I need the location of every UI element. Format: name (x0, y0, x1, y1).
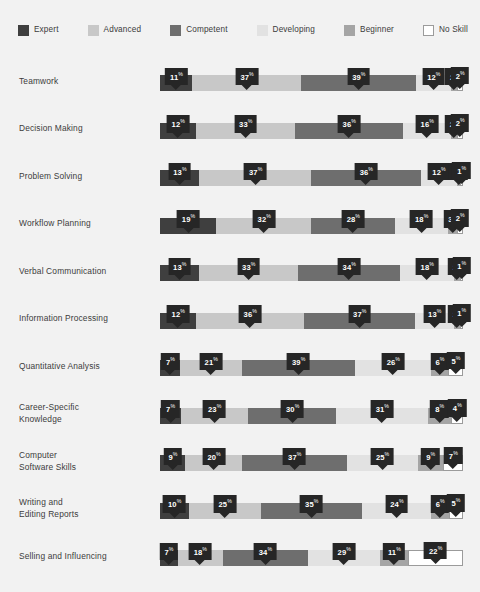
bar-segment-expert[interactable]: 7% (160, 408, 181, 424)
bar-segment-advanced[interactable]: 20% (185, 455, 242, 471)
percent-sign: % (440, 403, 445, 409)
bar-segment-advanced[interactable]: 25% (189, 503, 261, 519)
segment-value: 12 (172, 120, 181, 129)
segment-value-callout: 26% (382, 353, 405, 370)
segment-value: 13 (173, 167, 182, 176)
bar-wrapper: 9%20%37%25%9%7% (160, 437, 463, 485)
bar-segment-developing[interactable]: 24% (362, 503, 431, 519)
percent-sign: % (170, 403, 175, 409)
bar-segment-advanced[interactable]: 21% (180, 360, 241, 376)
bar-segment-expert[interactable]: 7% (160, 360, 180, 376)
bar-segment-advanced[interactable]: 23% (181, 408, 249, 424)
bar-segment-advanced[interactable]: 37% (199, 170, 311, 186)
percent-sign: % (368, 166, 373, 172)
bar-segment-no-skill[interactable]: 7% (443, 455, 463, 471)
segment-value: 33 (239, 120, 248, 129)
bar-wrapper: 7%18%34%29%11%22% (160, 532, 463, 580)
percent-sign: % (180, 118, 185, 124)
segment-value: 29 (338, 547, 347, 556)
row-label-text: Quantitative Analysis (19, 360, 100, 372)
bar-segment-no-skill[interactable]: 5% (449, 503, 463, 519)
bar-segment-expert[interactable]: 7% (160, 550, 178, 566)
bar-segment-expert[interactable]: 12% (160, 313, 196, 329)
bar-segment-developing[interactable]: 25% (347, 455, 418, 471)
segment-value-callout: 29% (333, 543, 356, 560)
legend-item-developing[interactable]: Developing (257, 25, 315, 36)
bar-segment-no-skill[interactable]: 22% (408, 550, 463, 566)
row-label-line: Problem Solving (19, 171, 82, 181)
bar-segment-no-skill[interactable]: 2% (457, 75, 463, 91)
segment-value-callout: 34% (338, 258, 361, 275)
segment-value: 22 (429, 546, 438, 555)
bar-wrapper: 7%23%30%31%8%4% (160, 390, 463, 438)
row-label-text: Workflow Planning (19, 217, 91, 229)
bar-segment-expert[interactable]: 13% (160, 265, 199, 281)
bar-segment-no-skill[interactable]: 1% (460, 265, 463, 281)
bar-segment-advanced[interactable]: 37% (192, 75, 301, 91)
legend-item-beginner[interactable]: Beginner (344, 25, 394, 36)
bar-segment-no-skill[interactable]: 2% (457, 218, 463, 234)
bar-segment-no-skill[interactable]: 4% (451, 408, 463, 424)
bar-segment-expert[interactable]: 11% (160, 75, 192, 91)
bar-segment-competent[interactable]: 35% (261, 503, 362, 519)
bar-segment-competent[interactable]: 34% (298, 265, 400, 281)
segment-value-callout: 25% (371, 448, 394, 465)
bar-segment-developing[interactable]: 26% (355, 360, 431, 376)
bar-segment-competent[interactable]: 36% (295, 123, 403, 139)
chart-row: Workflow Planning19%32%28%18%3%2% (0, 200, 480, 248)
segment-value-callout: 16% (416, 115, 439, 132)
bar-segment-advanced[interactable]: 33% (196, 123, 295, 139)
segment-value-callout: 33% (237, 258, 260, 275)
row-label: Problem Solving (19, 152, 154, 200)
bar-segment-developing[interactable]: 29% (308, 550, 381, 566)
bar-segment-expert[interactable]: 12% (160, 123, 196, 139)
legend-swatch-beginner (344, 25, 355, 36)
bar-segment-expert[interactable]: 9% (160, 455, 185, 471)
bar-segment-competent[interactable]: 37% (304, 313, 415, 329)
bar-segment-developing[interactable]: 18% (395, 218, 448, 234)
legend-item-advanced[interactable]: Advanced (88, 25, 142, 36)
bar-segment-expert[interactable]: 10% (160, 503, 189, 519)
bar-segment-competent[interactable]: 39% (242, 360, 356, 376)
bar-segment-competent[interactable]: 30% (248, 408, 336, 424)
bar-segment-no-skill[interactable]: 2% (457, 123, 463, 139)
bar-segment-developing[interactable]: 31% (336, 408, 427, 424)
legend-item-expert[interactable]: Expert (18, 25, 59, 36)
row-label-line: Information Processing (19, 313, 108, 323)
bar-segment-beginner[interactable]: 9% (418, 455, 443, 471)
legend-label: No Skill (439, 26, 468, 34)
segment-value: 11 (170, 72, 178, 81)
segment-value-callout: 7% (161, 400, 179, 417)
percent-sign: % (440, 356, 445, 362)
bar-segment-developing[interactable]: 18% (400, 265, 454, 281)
chart-row: Quantitative Analysis7%21%39%26%6%5% (0, 342, 480, 390)
bar-segment-advanced[interactable]: 18% (178, 550, 223, 566)
stacked-bar: 13%37%36%12%1%1% (160, 170, 463, 186)
bar-segment-expert[interactable]: 19% (160, 218, 216, 234)
segment-value-callout: 12% (167, 305, 190, 322)
percent-sign: % (385, 451, 390, 457)
percent-sign: % (441, 166, 446, 172)
bar-segment-beginner[interactable]: 11% (380, 550, 408, 566)
bar-segment-competent[interactable]: 28% (311, 218, 394, 234)
segment-value: 36 (360, 167, 369, 176)
percent-sign: % (252, 308, 257, 314)
segment-value-callout: 25% (214, 495, 237, 512)
bar-segment-competent[interactable]: 39% (301, 75, 416, 91)
bar-segment-competent[interactable]: 34% (223, 550, 308, 566)
legend-item-competent[interactable]: Competent (170, 25, 227, 36)
row-label: Selling and Influencing (19, 532, 154, 580)
bar-segment-expert[interactable]: 13% (160, 170, 199, 186)
bar-segment-competent[interactable]: 37% (242, 455, 347, 471)
bar-segment-no-skill[interactable]: 5% (448, 360, 463, 376)
bar-segment-advanced[interactable]: 33% (199, 265, 298, 281)
bar-segment-advanced[interactable]: 32% (216, 218, 311, 234)
legend-item-no-skill[interactable]: No Skill (423, 25, 468, 36)
bar-segment-no-skill[interactable]: 1% (460, 313, 463, 329)
bar-wrapper: 12%33%36%16%2%2% (160, 105, 463, 153)
bar-segment-competent[interactable]: 36% (311, 170, 420, 186)
bar-segment-no-skill[interactable]: 1% (460, 170, 463, 186)
bar-segment-advanced[interactable]: 36% (196, 313, 304, 329)
segment-value-callout: 12% (427, 163, 450, 180)
row-label: Information Processing (19, 295, 154, 343)
